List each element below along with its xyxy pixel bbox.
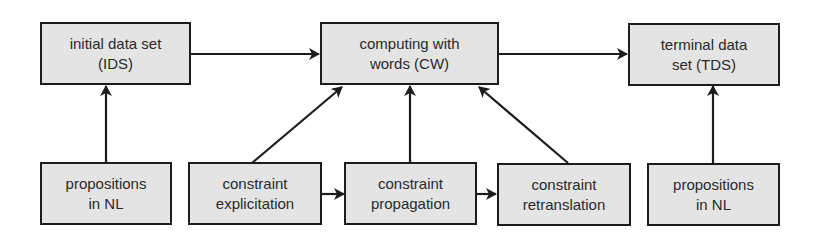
node-label-line: in NL bbox=[673, 195, 754, 215]
edge-explicitation-to-cw bbox=[252, 87, 342, 163]
node-label-line: constraint bbox=[371, 174, 450, 194]
node-constraint-propagation: constraintpropagation bbox=[344, 162, 477, 225]
node-label-line: retranslation bbox=[523, 195, 606, 215]
node-label-line: computing with bbox=[359, 34, 459, 54]
node-propositions-in-nl-right: propositionsin NL bbox=[647, 163, 780, 226]
node-constraint-retranslation: constraintretranslation bbox=[497, 163, 631, 226]
node-label-line: explicitation bbox=[216, 194, 294, 214]
node-initial-data-set: initial data set(IDS) bbox=[40, 22, 191, 85]
node-label-line: initial data set bbox=[70, 34, 162, 54]
node-label-line: constraint bbox=[216, 174, 294, 194]
node-label-line: propositions bbox=[673, 175, 754, 195]
node-computing-with-words: computing withwords (CW) bbox=[320, 22, 499, 85]
node-constraint-explicitation: constraintexplicitation bbox=[188, 162, 322, 225]
node-label-line: (IDS) bbox=[70, 54, 162, 74]
edge-retranslation-to-cw bbox=[479, 87, 568, 163]
node-label-line: propositions bbox=[66, 174, 147, 194]
node-terminal-data-set: terminal dataset (TDS) bbox=[628, 23, 780, 86]
node-propositions-in-nl-left: propositionsin NL bbox=[40, 162, 172, 225]
node-label-line: words (CW) bbox=[359, 54, 459, 74]
node-label-line: terminal data bbox=[661, 35, 748, 55]
node-label-line: in NL bbox=[66, 194, 147, 214]
node-label-line: propagation bbox=[371, 194, 450, 214]
node-label-line: constraint bbox=[523, 175, 606, 195]
node-label-line: set (TDS) bbox=[661, 55, 748, 75]
